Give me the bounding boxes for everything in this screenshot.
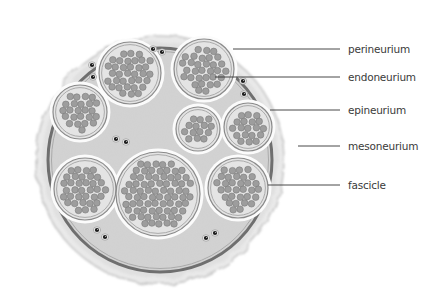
nerve-fiber [67, 93, 74, 100]
nerve-fiber [74, 94, 81, 101]
nerve-fiber [124, 84, 131, 91]
nerve-fiber [93, 113, 100, 120]
nerve-fiber [153, 161, 160, 168]
nerve-fiber [138, 161, 145, 168]
nerve-fiber [134, 208, 141, 215]
nerve-fiber [249, 187, 256, 194]
nerve-fiber [160, 187, 167, 194]
nerve-fiber [76, 180, 83, 187]
nerve-fiber [195, 46, 202, 53]
nerve-fiber [80, 199, 87, 206]
nerve-fiber [135, 77, 142, 84]
nerve-fiber [156, 207, 163, 214]
nerve-fiber [127, 64, 134, 71]
nerve-fiber [87, 187, 94, 194]
nerve-fiber [191, 53, 198, 60]
nerve-fiber [218, 187, 225, 194]
nerve-fiber [160, 201, 167, 208]
nerve-fiber [229, 125, 236, 132]
nerve-fiber [141, 181, 148, 188]
nerve-fiber [130, 187, 137, 194]
nerve-fiber [110, 57, 117, 64]
nerve-fiber [249, 132, 256, 139]
nerve-fiber [148, 181, 155, 188]
nerve-fiber [197, 116, 204, 123]
nerve-fiber [78, 101, 85, 108]
nerve-fiber [144, 77, 151, 84]
nerve-fiber [79, 127, 86, 134]
blood-vessel [89, 74, 96, 80]
nerve-fiber [112, 64, 119, 71]
nerve-fiber [121, 51, 128, 58]
nerve-fiber [75, 207, 82, 214]
nerve-fiber [190, 116, 197, 123]
nerve-fiber [120, 90, 127, 97]
nerve-fiber [234, 119, 241, 126]
blood-vessel [122, 139, 129, 145]
nerve-fiber [61, 180, 68, 187]
nerve-fiber [182, 54, 189, 61]
nerve-fiber [90, 120, 97, 127]
nerve-fiber [181, 128, 188, 135]
nerve-fiber [203, 61, 210, 68]
nerve-fiber [218, 74, 225, 81]
nerve-fiber [105, 63, 112, 70]
nerve-fiber [184, 67, 191, 74]
nerve-fiber [75, 121, 82, 128]
nerve-fiber [68, 179, 75, 186]
nerve-fiber [136, 65, 143, 72]
nerve-fiber [199, 67, 206, 74]
nerve-fiber [89, 94, 96, 101]
nerve-fiber [206, 116, 213, 123]
nerve-fiber [133, 181, 140, 188]
label-fascicle: fascicle [348, 179, 386, 191]
nerve-fiber [245, 112, 252, 119]
nerve-fiber [218, 61, 225, 68]
nerve-fiber [245, 166, 252, 173]
nerve-fiber [188, 59, 195, 66]
nerve-fiber [138, 213, 145, 220]
fascicle [53, 85, 107, 139]
nerve-fiber [129, 77, 136, 84]
nerve-fiber [90, 167, 97, 174]
nerve-fiber [137, 174, 144, 181]
nerve-fiber [176, 187, 183, 194]
nerve-fiber [194, 135, 201, 142]
nerve-fiber [77, 113, 84, 120]
nerve-fiber [226, 200, 233, 207]
nerve-fiber [175, 174, 182, 181]
blood-vessel [93, 227, 100, 233]
nerve-fiber [79, 174, 86, 181]
nerve-fiber [147, 71, 154, 78]
nerve-fiber [68, 167, 75, 174]
nerve-fiber [153, 213, 160, 220]
nerve-fiber [210, 48, 217, 55]
nerve-fiber [260, 125, 267, 132]
nerve-fiber [233, 187, 240, 194]
nerve-fiber [72, 187, 79, 194]
nerve-fiber [203, 74, 210, 81]
nerve-fiber [171, 221, 178, 228]
nerve-fiber [186, 122, 193, 129]
nerve-fiber [168, 213, 175, 220]
nerve-fiber [249, 119, 256, 126]
blood-vessel [239, 78, 246, 84]
nerve-fiber [159, 161, 166, 168]
nerve-fiber [167, 188, 174, 195]
nerve-fiber [120, 78, 127, 85]
nerve-fiber [233, 200, 240, 207]
nerve-fiber [253, 124, 260, 131]
nerve-fiber [229, 179, 236, 186]
nerve-fiber [183, 188, 190, 195]
fascicle [174, 39, 234, 99]
nerve-fiber [71, 114, 78, 121]
nerve-fiber [178, 181, 185, 188]
nerve-fiber [203, 88, 210, 95]
nerve-fiber [145, 201, 152, 208]
nerve-fiber [171, 194, 178, 201]
fascicle [176, 107, 220, 151]
nerve-fiber [164, 220, 171, 227]
nerve-fiber [234, 132, 241, 139]
nerve-fiber [167, 200, 174, 207]
nerve-fiber [183, 174, 190, 181]
